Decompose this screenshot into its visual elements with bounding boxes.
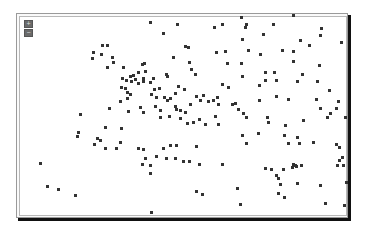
map-marker[interactable] xyxy=(326,116,329,119)
map-marker[interactable] xyxy=(93,143,96,146)
map-marker[interactable] xyxy=(241,134,244,137)
map-marker[interactable] xyxy=(296,80,299,83)
map-marker[interactable] xyxy=(264,167,267,170)
map-marker[interactable] xyxy=(344,116,347,119)
map-marker[interactable] xyxy=(236,187,239,190)
map-marker[interactable] xyxy=(195,190,198,193)
map-marker[interactable] xyxy=(149,164,152,167)
map-marker[interactable] xyxy=(275,95,278,98)
map-marker[interactable] xyxy=(175,108,178,111)
map-marker[interactable] xyxy=(264,71,267,74)
map-marker[interactable] xyxy=(129,75,132,78)
map-marker[interactable] xyxy=(150,211,153,214)
map-marker[interactable] xyxy=(168,115,171,118)
map-marker[interactable] xyxy=(137,82,140,85)
map-marker[interactable] xyxy=(277,177,280,180)
map-marker[interactable] xyxy=(328,89,331,92)
map-marker[interactable] xyxy=(120,127,123,130)
map-marker[interactable] xyxy=(295,165,298,168)
map-marker[interactable] xyxy=(142,148,145,151)
map-marker[interactable] xyxy=(137,71,140,74)
map-marker[interactable] xyxy=(217,123,220,126)
map-marker[interactable] xyxy=(159,116,162,119)
map-marker[interactable] xyxy=(130,80,133,83)
map-marker[interactable] xyxy=(242,112,245,115)
map-marker[interactable] xyxy=(258,99,261,102)
map-marker[interactable] xyxy=(231,103,234,106)
map-marker[interactable] xyxy=(149,81,152,84)
map-marker[interactable] xyxy=(287,98,290,101)
map-marker[interactable] xyxy=(174,105,177,108)
map-marker[interactable] xyxy=(142,111,145,114)
map-marker[interactable] xyxy=(320,27,323,30)
map-marker[interactable] xyxy=(111,56,114,59)
map-marker[interactable] xyxy=(234,102,237,105)
map-marker[interactable] xyxy=(292,14,295,17)
map-marker[interactable] xyxy=(279,183,282,186)
map-marker[interactable] xyxy=(134,78,137,81)
map-marker[interactable] xyxy=(195,95,198,98)
map-marker[interactable] xyxy=(240,62,243,65)
map-marker[interactable] xyxy=(299,39,302,42)
map-marker[interactable] xyxy=(324,202,327,205)
map-marker[interactable] xyxy=(162,32,165,35)
map-marker[interactable] xyxy=(301,73,304,76)
map-marker[interactable] xyxy=(166,75,169,78)
map-marker[interactable] xyxy=(46,185,49,188)
map-marker[interactable] xyxy=(258,84,261,87)
map-marker[interactable] xyxy=(127,110,130,113)
map-marker[interactable] xyxy=(345,181,348,184)
map-marker[interactable] xyxy=(337,100,340,103)
map-marker[interactable] xyxy=(319,34,322,37)
map-marker[interactable] xyxy=(221,23,224,26)
map-marker[interactable] xyxy=(336,164,339,167)
map-marker[interactable] xyxy=(101,44,104,47)
map-marker[interactable] xyxy=(273,71,276,74)
map-marker[interactable] xyxy=(172,56,175,59)
map-marker[interactable] xyxy=(244,26,247,29)
map-marker[interactable] xyxy=(125,79,128,82)
map-marker[interactable] xyxy=(106,66,109,69)
map-marker[interactable] xyxy=(283,196,286,199)
map-marker[interactable] xyxy=(182,160,185,163)
map-marker[interactable] xyxy=(298,142,301,145)
map-marker[interactable] xyxy=(277,192,280,195)
map-marker[interactable] xyxy=(174,157,177,160)
map-marker[interactable] xyxy=(281,49,284,52)
map-marker[interactable] xyxy=(275,79,278,82)
map-marker[interactable] xyxy=(132,74,135,77)
map-marker[interactable] xyxy=(312,141,315,144)
map-marker[interactable] xyxy=(188,160,191,163)
map-marker[interactable] xyxy=(174,92,177,95)
map-marker[interactable] xyxy=(155,96,158,99)
map-marker[interactable] xyxy=(143,62,146,65)
map-marker[interactable] xyxy=(315,98,318,101)
map-marker[interactable] xyxy=(224,50,227,53)
map-marker[interactable] xyxy=(92,51,95,54)
map-marker[interactable] xyxy=(179,109,182,112)
map-marker[interactable] xyxy=(245,142,248,145)
map-marker[interactable] xyxy=(335,107,338,110)
map-marker[interactable] xyxy=(267,121,270,124)
map-marker[interactable] xyxy=(153,88,156,91)
map-marker[interactable] xyxy=(292,60,295,63)
map-marker[interactable] xyxy=(199,99,202,102)
map-marker[interactable] xyxy=(214,115,217,118)
map-marker[interactable] xyxy=(155,155,158,158)
map-marker[interactable] xyxy=(100,53,103,56)
map-marker[interactable] xyxy=(57,188,60,191)
map-marker[interactable] xyxy=(241,38,244,41)
map-marker[interactable] xyxy=(150,93,153,96)
map-marker[interactable] xyxy=(212,99,215,102)
map-marker[interactable] xyxy=(175,144,178,147)
map-marker[interactable] xyxy=(183,88,186,91)
map-marker[interactable] xyxy=(184,111,187,114)
map-marker[interactable] xyxy=(221,83,224,86)
map-marker[interactable] xyxy=(139,106,142,109)
map-marker[interactable] xyxy=(241,75,244,78)
map-marker[interactable] xyxy=(264,79,267,82)
map-marker[interactable] xyxy=(316,80,319,83)
map-marker[interactable] xyxy=(121,77,124,80)
map-marker[interactable] xyxy=(287,142,290,145)
map-marker[interactable] xyxy=(165,157,168,160)
